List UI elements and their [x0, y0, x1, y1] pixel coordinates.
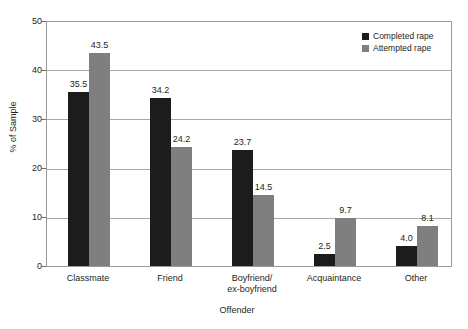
bar-group: 4.08.1 — [396, 22, 438, 266]
y-tick-label-20: 20 — [16, 164, 42, 173]
bar-chart: 50 40 30 20 10 0 % of Sample 35.543.534.… — [0, 0, 468, 329]
bar-attempted — [417, 226, 438, 266]
bar-attempted — [253, 195, 274, 266]
bar-value-label: 14.5 — [247, 183, 281, 192]
bar-attempted — [89, 53, 110, 266]
bar-group: 35.543.5 — [68, 22, 110, 266]
bar-completed — [232, 150, 253, 266]
y-tick-label-50: 50 — [16, 17, 42, 26]
bar-attempted — [335, 218, 356, 266]
bar-completed — [314, 254, 335, 266]
y-tick-label-30: 30 — [16, 115, 42, 124]
bar-group: 2.59.7 — [314, 22, 356, 266]
x-axis-title: Offender — [0, 305, 468, 315]
bar-completed — [150, 98, 171, 266]
legend-label: Completed rape — [373, 30, 433, 42]
plot-area: 35.543.534.224.223.714.52.59.74.08.1 — [46, 21, 452, 267]
x-category-label: Other — [361, 273, 468, 284]
y-axis-title: % of Sample — [8, 82, 18, 172]
legend-label: Attempted rape — [373, 42, 431, 54]
legend: Completed rapeAttempted rape — [362, 30, 433, 54]
y-tick-label-40: 40 — [16, 66, 42, 75]
bar-value-label: 34.2 — [144, 86, 178, 95]
legend-item: Completed rape — [362, 30, 433, 42]
bar-value-label: 9.7 — [329, 206, 363, 215]
y-tick-label-10: 10 — [16, 213, 42, 222]
bar-value-label: 43.5 — [83, 41, 117, 50]
y-tick-label-0: 0 — [16, 262, 42, 271]
bar-value-label: 8.1 — [411, 214, 445, 223]
bar-value-label: 23.7 — [226, 138, 260, 147]
legend-swatch-icon — [362, 45, 369, 52]
x-axis-title-text: Offender — [220, 305, 255, 315]
legend-swatch-icon — [362, 33, 369, 40]
bar-group: 23.714.5 — [232, 22, 274, 266]
bar-group: 34.224.2 — [150, 22, 192, 266]
bar-completed — [68, 92, 89, 266]
bar-value-label: 24.2 — [165, 135, 199, 144]
bar-attempted — [171, 147, 192, 266]
bar-completed — [396, 246, 417, 266]
legend-item: Attempted rape — [362, 42, 433, 54]
